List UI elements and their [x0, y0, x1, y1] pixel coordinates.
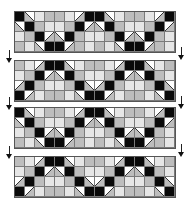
- grid-cell: [125, 177, 135, 187]
- grid-cell: [35, 42, 45, 52]
- grid-cell: [45, 108, 55, 118]
- grid-cell: [145, 118, 155, 128]
- grid-cell: [145, 177, 155, 187]
- grid-cell: [125, 138, 135, 148]
- grid-cell: [145, 157, 155, 167]
- grid-cell: [155, 157, 165, 167]
- grid-cell: [165, 138, 175, 148]
- grid-cell: [75, 91, 85, 101]
- grid-cell: [55, 187, 65, 197]
- grid-cell: [115, 187, 125, 197]
- grid-cell: [145, 42, 155, 52]
- grid-cell: [145, 187, 155, 197]
- grid-cell: [165, 187, 175, 197]
- grid-cell: [45, 71, 55, 81]
- grid-cell: [35, 187, 45, 197]
- grid-cell: [165, 177, 175, 187]
- grid-cell: [115, 118, 125, 128]
- grid-cell: [15, 177, 25, 187]
- grid-cell: [155, 91, 165, 101]
- grid-cell: [15, 138, 25, 148]
- grid-cell: [95, 128, 105, 138]
- grid-cell: [65, 167, 75, 177]
- grid-cell: [135, 81, 145, 91]
- grid-cell: [85, 167, 95, 177]
- grid-cell: [125, 61, 135, 71]
- panel-1: [15, 12, 175, 52]
- grid-cell: [135, 128, 145, 138]
- grid-cell: [75, 167, 85, 177]
- grid-cell: [115, 12, 125, 22]
- grid-cell: [75, 42, 85, 52]
- grid-cell: [65, 32, 75, 42]
- grid-cell: [145, 138, 155, 148]
- grid-cell: [115, 71, 125, 81]
- grid-cell: [125, 71, 135, 81]
- grid-cell: [135, 22, 145, 32]
- grid-cell: [105, 138, 115, 148]
- grid-cell: [75, 128, 85, 138]
- grid-cell: [25, 118, 35, 128]
- grid-cell: [105, 32, 115, 42]
- grid-cell: [55, 22, 65, 32]
- grid-cell: [105, 71, 115, 81]
- grid-cell: [135, 61, 145, 71]
- grid-cell: [75, 22, 85, 32]
- grid-cell: [125, 108, 135, 118]
- grid-cell: [45, 128, 55, 138]
- grid-cell: [45, 187, 55, 197]
- grid-cell: [75, 61, 85, 71]
- grid-cell: [35, 128, 45, 138]
- grid-cell: [115, 42, 125, 52]
- grid-cell: [25, 187, 35, 197]
- grid-cell: [145, 81, 155, 91]
- grid-cell: [125, 187, 135, 197]
- grid-cell: [25, 12, 35, 22]
- grid-cell: [165, 128, 175, 138]
- grid-cell: [45, 118, 55, 128]
- grid-cell: [165, 91, 175, 101]
- grid-cell: [105, 177, 115, 187]
- grid-cell: [155, 118, 165, 128]
- grid-cell: [115, 128, 125, 138]
- grid-cell: [15, 167, 25, 177]
- grid-cell: [85, 157, 95, 167]
- grid-cell: [85, 177, 95, 187]
- down-arrow-icon: [6, 50, 14, 63]
- grid-cell: [155, 61, 165, 71]
- grid-cell: [55, 71, 65, 81]
- grid-cell: [85, 91, 95, 101]
- grid-cell: [65, 42, 75, 52]
- grid-cell: [65, 128, 75, 138]
- down-arrow-icon: [6, 97, 14, 110]
- grid-cell: [155, 138, 165, 148]
- grid-cell: [65, 12, 75, 22]
- grid-cell: [95, 32, 105, 42]
- grid-cell: [105, 22, 115, 32]
- grid-cell: [75, 157, 85, 167]
- grid-cell: [145, 22, 155, 32]
- grid-cell: [95, 91, 105, 101]
- grid-cell: [55, 128, 65, 138]
- grid-cell: [15, 61, 25, 71]
- grid-cell: [75, 12, 85, 22]
- grid-cell: [65, 81, 75, 91]
- grid-cell: [85, 71, 95, 81]
- grid-cell: [25, 167, 35, 177]
- grid-cell: [15, 22, 25, 32]
- grid-cell: [15, 108, 25, 118]
- grid-cell: [15, 91, 25, 101]
- grid-cell: [85, 12, 95, 22]
- grid-cell: [15, 71, 25, 81]
- grid-cell: [95, 157, 105, 167]
- grid-cell: [155, 177, 165, 187]
- grid-cell: [25, 177, 35, 187]
- grid-cell: [55, 81, 65, 91]
- grid-cell: [95, 81, 105, 91]
- grid-cell: [165, 71, 175, 81]
- grid-cell: [45, 12, 55, 22]
- grid-cell: [65, 22, 75, 32]
- grid-cell: [145, 61, 155, 71]
- arrow-head: [178, 152, 184, 157]
- grid-cell: [115, 61, 125, 71]
